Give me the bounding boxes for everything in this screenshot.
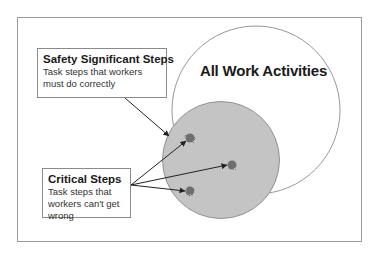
safety-significant-steps-circle [163, 102, 280, 219]
callout-title: Safety Significant Steps [43, 53, 161, 66]
callout-description: Task steps that workers can't get wrong [48, 186, 126, 222]
critical-step-point-1 [186, 134, 195, 143]
callout-description: Task steps that workers must do correctl… [43, 66, 161, 90]
all-work-activities-label: All Work Activities [200, 62, 327, 79]
safety-significant-steps-callout: Safety Significant Steps Task steps that… [37, 48, 167, 98]
diagram-canvas: All Work Activities Safety Significant S… [0, 0, 382, 254]
safety-steps-arrow [125, 98, 169, 136]
critical-step-point-3 [186, 187, 195, 196]
critical-steps-callout: Critical Steps Task steps that workers c… [42, 168, 131, 218]
critical-step-point-2 [228, 161, 237, 170]
callout-title: Critical Steps [48, 173, 125, 186]
